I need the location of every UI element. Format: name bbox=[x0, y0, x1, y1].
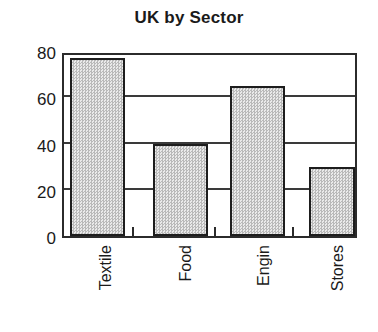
x-axis-label-engin: Engin bbox=[256, 245, 272, 286]
y-axis-tick-label-40: 40 bbox=[10, 137, 56, 154]
x-axis-label-food: Food bbox=[178, 245, 194, 281]
y-axis-tick-label-20: 20 bbox=[10, 183, 56, 200]
bar-textile bbox=[70, 58, 125, 236]
x-axis-label-stores: Stores bbox=[330, 245, 346, 291]
chart-title: UK by Sector bbox=[0, 8, 378, 28]
x-axis-tick-3 bbox=[292, 227, 294, 236]
y-axis-tick-label-60: 60 bbox=[10, 91, 56, 108]
bar-stores bbox=[309, 167, 355, 236]
y-axis-tick-label-0: 0 bbox=[10, 230, 56, 247]
x-axis-tick-2 bbox=[214, 227, 216, 236]
x-axis-tick-1 bbox=[132, 227, 134, 236]
plot-area bbox=[62, 53, 357, 238]
bar-food bbox=[153, 144, 208, 237]
bar-chart-figure: UK by Sector 0 20 40 60 80 Textile Food … bbox=[0, 0, 378, 332]
y-axis-tick-label-80: 80 bbox=[10, 45, 56, 62]
x-axis-label-textile: Textile bbox=[98, 245, 114, 290]
bar-engin bbox=[230, 86, 285, 236]
